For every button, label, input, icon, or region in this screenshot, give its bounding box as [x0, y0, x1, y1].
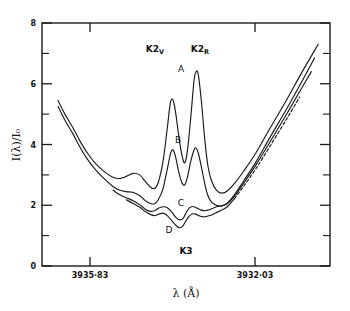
annotation-layer: K2V K2R A B C D K3 [146, 44, 209, 256]
label-k3: K3 [179, 246, 192, 256]
x-axis-ticks [90, 23, 255, 266]
y-axis-title: I(λ)/I₀ [10, 128, 23, 161]
x-axis-title: λ (Å) [173, 286, 200, 300]
x-tick-label-right: 3932·03 [237, 271, 273, 280]
label-peak-b: B [175, 135, 181, 145]
label-k2v: K2V [146, 44, 164, 56]
label-peak-a: A [178, 64, 185, 74]
y-tick-label-8: 8 [30, 19, 36, 28]
plot-frame [42, 23, 330, 266]
y-axis-right-ticks [320, 23, 330, 266]
label-k2r: K2R [191, 44, 209, 56]
y-tick-label-2: 2 [30, 201, 36, 210]
x-tick-label-left: 3935·83 [72, 271, 108, 280]
figure-container: 0 2 4 6 8 3935·83 3932·03 I(λ)/I₀ λ (Å) … [0, 0, 350, 311]
y-axis-major-ticks [42, 23, 52, 266]
spectral-line-profile-chart: 0 2 4 6 8 3935·83 3932·03 I(λ)/I₀ λ (Å) … [0, 0, 350, 311]
y-tick-label-4: 4 [30, 141, 36, 150]
label-peak-c: C [178, 198, 184, 208]
curve-layer [58, 44, 318, 227]
y-tick-label-6: 6 [30, 80, 36, 89]
y-tick-label-0: 0 [30, 262, 36, 271]
label-peak-d: D [166, 225, 173, 235]
